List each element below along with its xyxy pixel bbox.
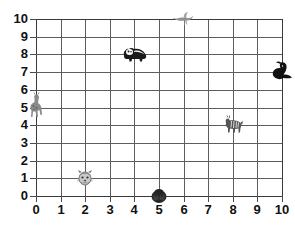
y-axis-label-0: 0 (0, 189, 28, 203)
plot-area (36, 19, 282, 196)
grid-line-horizontal (36, 161, 282, 162)
animal-marker-gorilla[interactable] (150, 188, 169, 204)
grid-line-horizontal (36, 19, 282, 20)
animal-marker-tiger[interactable] (77, 170, 94, 186)
y-axis-tick (30, 161, 36, 162)
x-axis-label-8: 8 (221, 203, 245, 217)
grid-line-horizontal (36, 72, 282, 73)
gorilla-icon (150, 188, 169, 204)
animal-marker-giraffe[interactable] (28, 93, 45, 123)
y-axis-tick (30, 72, 36, 73)
seal-icon (270, 61, 294, 83)
y-axis-label-4: 4 (0, 118, 28, 132)
chart-title (64, 0, 214, 2)
y-axis-label-7: 7 (0, 65, 28, 79)
y-axis-label-3: 3 (0, 136, 28, 150)
x-axis-label-5: 5 (147, 203, 171, 217)
x-axis-label-10: 10 (270, 203, 294, 217)
y-axis-tick (30, 37, 36, 38)
x-axis-label-4: 4 (122, 203, 146, 217)
y-axis-label-8: 8 (0, 47, 28, 61)
grid-line-horizontal (36, 125, 282, 126)
grid-line-horizontal (36, 178, 282, 179)
x-axis-label-0: 0 (24, 203, 48, 217)
x-axis-label-1: 1 (49, 203, 73, 217)
giraffe-icon (28, 93, 45, 123)
grid-line-vertical (282, 19, 283, 196)
y-axis-label-5: 5 (0, 101, 28, 115)
y-axis-tick (30, 54, 36, 55)
y-axis-label-9: 9 (0, 30, 28, 44)
y-axis-label-10: 10 (0, 12, 28, 26)
y-axis-tick (30, 125, 36, 126)
grid-line-horizontal (36, 54, 282, 55)
y-axis-label-2: 2 (0, 154, 28, 168)
coordinate-grid-chart: 012345678910012345678910 (0, 0, 295, 229)
y-axis-tick (30, 90, 36, 91)
tiger-face-icon (77, 170, 94, 186)
x-axis-label-2: 2 (73, 203, 97, 217)
bird-icon (173, 11, 195, 27)
grid-line-horizontal (36, 90, 282, 91)
animal-marker-panda[interactable] (119, 46, 149, 63)
animal-marker-zebra[interactable] (221, 116, 244, 135)
animal-marker-bird[interactable] (173, 11, 195, 27)
x-axis-label-9: 9 (245, 203, 269, 217)
zebra-icon (221, 116, 244, 135)
grid-line-horizontal (36, 143, 282, 144)
y-axis-tick (30, 19, 36, 20)
y-axis-label-1: 1 (0, 171, 28, 185)
y-axis-tick (30, 178, 36, 179)
y-axis-tick (30, 143, 36, 144)
animal-marker-seal[interactable] (270, 61, 294, 83)
panda-icon (119, 46, 149, 63)
x-axis-label-6: 6 (172, 203, 196, 217)
y-axis-label-6: 6 (0, 83, 28, 97)
x-axis-label-7: 7 (196, 203, 220, 217)
x-axis-label-3: 3 (98, 203, 122, 217)
grid-line-horizontal (36, 37, 282, 38)
grid-line-horizontal (36, 108, 282, 109)
